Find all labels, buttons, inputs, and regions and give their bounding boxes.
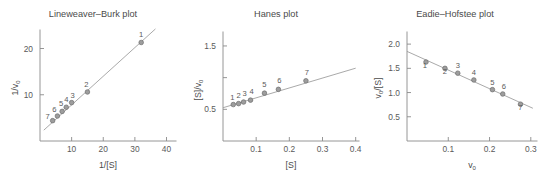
data-point-label: 2 [236, 91, 240, 100]
three-plot-figure: Lineweaver–Burk plot 102030401020 123456… [0, 0, 548, 187]
data-point-label: 7 [46, 112, 50, 121]
y-tick-label: 0.5 [389, 112, 401, 122]
data-point [241, 100, 246, 105]
y-axis-label-main: [S]/v [193, 82, 203, 100]
data-point [55, 114, 60, 119]
y-tick-label: 1.5 [204, 41, 216, 51]
data-point-label: 4 [472, 68, 476, 77]
tick-marks-group: 0.10.20.30.51.01.52.0 [389, 39, 538, 154]
data-point [69, 100, 74, 105]
x-tick-label: 10 [67, 144, 77, 154]
tick-marks-group: 102030401020 [24, 44, 172, 155]
data-points-group: 1234567 [46, 30, 144, 122]
data-point-label: 5 [262, 80, 266, 89]
axes-group [223, 32, 359, 141]
data-point-label: 3 [71, 91, 75, 100]
data-point [490, 87, 495, 92]
axis-lines [223, 32, 359, 141]
data-point-label: 4 [249, 87, 253, 96]
data-point [472, 78, 477, 83]
data-point [456, 71, 461, 76]
data-point [139, 40, 144, 45]
panel-lineweaver-burk: Lineweaver–Burk plot 102030401020 123456… [0, 0, 183, 187]
x-axis-label: [S] [285, 160, 296, 170]
x-tick-label: 0.1 [443, 144, 455, 154]
eadie-hofstee-chart: Eadie–Hofstee plot 0.10.20.30.51.01.52.0… [365, 0, 548, 187]
axes-group [40, 30, 176, 141]
hanes-chart: Hanes plot 0.10.20.30.40.51.5 1234567 [S… [183, 0, 366, 187]
data-point-label: 7 [304, 68, 308, 77]
x-axis-label: v0 [468, 160, 476, 171]
data-point-label: 1 [423, 61, 427, 70]
data-point-label: 2 [84, 80, 88, 89]
y-axis-label-tail: /[S] [373, 78, 383, 91]
data-point [303, 78, 308, 83]
data-point-label: 4 [64, 95, 68, 104]
tick-marks-group: 0.10.20.30.40.51.5 [204, 41, 361, 154]
data-point [248, 98, 253, 103]
data-point-label: 6 [277, 76, 281, 85]
x-tick-label: 0.4 [350, 144, 362, 154]
data-point [64, 105, 69, 110]
data-point-label: 6 [502, 82, 506, 91]
y-tick-label: 1.0 [389, 88, 401, 98]
lineweaver-burk-chart: Lineweaver–Burk plot 102030401020 123456… [0, 0, 183, 187]
data-point [85, 90, 90, 95]
chart-title: Eadie–Hofstee plot [416, 9, 494, 19]
data-point [501, 92, 506, 97]
data-point-label: 6 [52, 105, 56, 114]
data-point [276, 87, 281, 92]
axes-group [407, 32, 537, 141]
y-axis-label: [S]/v0 [193, 79, 204, 101]
panel-hanes: Hanes plot 0.10.20.30.40.51.5 1234567 [S… [183, 0, 366, 187]
data-point-label: 1 [230, 93, 234, 102]
y-tick-label: 2.0 [389, 39, 401, 49]
y-axis-label-main: 1/v [10, 83, 20, 95]
data-points-group: 1234567 [423, 60, 523, 112]
chart-title: Hanes plot [254, 9, 298, 19]
data-point-label: 5 [59, 99, 63, 108]
data-point [50, 118, 55, 123]
x-tick-label: 0.2 [283, 144, 295, 154]
y-axis-label-sub: 0 [15, 80, 21, 84]
data-point-label: 5 [491, 78, 495, 87]
data-point [231, 102, 236, 107]
x-tick-label: 0.2 [484, 144, 496, 154]
x-tick-label: 40 [162, 144, 172, 154]
data-point-label: 1 [139, 30, 143, 39]
x-tick-label: 0.3 [525, 144, 537, 154]
x-tick-label: 30 [130, 144, 140, 154]
x-tick-label: 20 [99, 144, 109, 154]
y-axis-label: 1/v0 [10, 80, 21, 96]
data-point [262, 91, 267, 96]
chart-title: Lineweaver–Burk plot [49, 9, 138, 19]
x-tick-label: 0.1 [250, 144, 262, 154]
data-points-group: 1234567 [230, 68, 309, 107]
data-point [236, 101, 241, 106]
x-axis-label-sub: 0 [473, 165, 477, 171]
y-axis-label-sub: 0 [198, 79, 204, 83]
y-axis-label: v0/[S] [373, 78, 384, 99]
y-tick-label: 10 [24, 90, 34, 100]
data-point-label: 3 [456, 61, 460, 70]
y-tick-label: 1.5 [389, 63, 401, 73]
axis-lines [407, 32, 537, 141]
regression-line [44, 29, 156, 130]
y-tick-label: 20 [24, 44, 34, 54]
x-axis-label: 1/[S] [99, 160, 117, 170]
axis-lines [40, 30, 176, 141]
panel-eadie-hofstee: Eadie–Hofstee plot 0.10.20.30.51.01.52.0… [365, 0, 548, 187]
data-point-label: 7 [519, 103, 523, 112]
data-point [60, 109, 65, 114]
x-tick-label: 0.3 [316, 144, 328, 154]
data-point-label: 2 [443, 67, 447, 76]
data-point-label: 3 [242, 89, 246, 98]
y-tick-label: 0.5 [204, 104, 216, 114]
fit-line-group [44, 29, 156, 130]
